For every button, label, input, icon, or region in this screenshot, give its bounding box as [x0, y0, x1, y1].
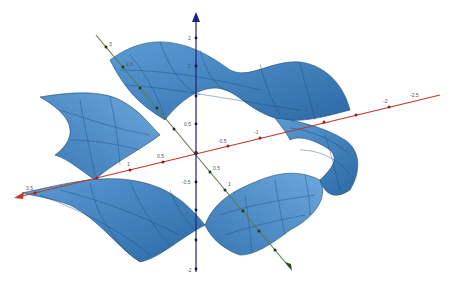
y-tick-label: 2.5	[126, 61, 133, 67]
plot-canvas[interactable]: 3.5 1 0.5 -0.5 -1 -2 -2.5 3 2.5 0.5 1 2	[0, 0, 452, 283]
origin-point	[194, 151, 198, 155]
y-tick-label: 3	[109, 41, 112, 47]
x-tick-label: -0.5	[218, 138, 227, 144]
z-tick-label: -2	[187, 267, 192, 273]
x-tick-label: -2	[383, 98, 388, 104]
z-tick-label: -0.5	[182, 179, 191, 185]
z-tick-label: 0.5	[184, 121, 191, 127]
surface	[22, 42, 358, 262]
z-tick-label: 1	[188, 63, 191, 69]
y-tick-label: 0.5	[213, 165, 220, 171]
x-tick-label: -1	[254, 129, 259, 135]
z-tick-label: 2	[188, 35, 191, 41]
surface-plot: 3.5 1 0.5 -0.5 -1 -2 -2.5 3 2.5 0.5 1 2	[0, 0, 452, 283]
x-tick-label: 0.5	[157, 153, 164, 159]
x-tick-label: 3.5	[26, 185, 33, 191]
y-tick-label: 1	[228, 181, 231, 187]
z-axis-arrow-icon	[192, 12, 200, 22]
x-tick-label: -2.5	[410, 92, 419, 98]
x-axis-arrow-icon	[14, 192, 24, 199]
x-tick-label: 1	[127, 161, 130, 167]
